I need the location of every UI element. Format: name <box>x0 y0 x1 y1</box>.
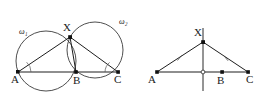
label-circle-omega1: ω₁ <box>19 27 28 36</box>
geometry-figure-root: A X B C ω₁ ω₂ <box>0 0 271 106</box>
label-point-C: C <box>114 73 121 85</box>
point-X <box>68 35 72 39</box>
label-point-B: B <box>73 74 80 86</box>
label-point-B: B <box>217 74 224 86</box>
label-point-C: C <box>246 73 253 85</box>
geometry-figure-svg: A X B C ω₁ ω₂ <box>0 0 271 106</box>
circle-omega1 <box>16 31 76 91</box>
point-foot-of-perpendicular <box>201 70 205 74</box>
segment-X-C <box>203 42 248 72</box>
label-point-A: A <box>11 73 19 85</box>
label-point-A: A <box>148 73 156 85</box>
point-X <box>201 40 205 44</box>
segment-X-C <box>70 37 118 72</box>
label-point-X: X <box>194 26 202 38</box>
label-circle-omega2: ω₂ <box>119 17 128 26</box>
segment-A-X <box>18 37 70 72</box>
label-point-X: X <box>63 21 71 33</box>
isosceles-triangle-diagram: A X B C <box>148 26 253 91</box>
intersecting-circles-diagram: A X B C ω₁ ω₂ <box>11 17 128 91</box>
